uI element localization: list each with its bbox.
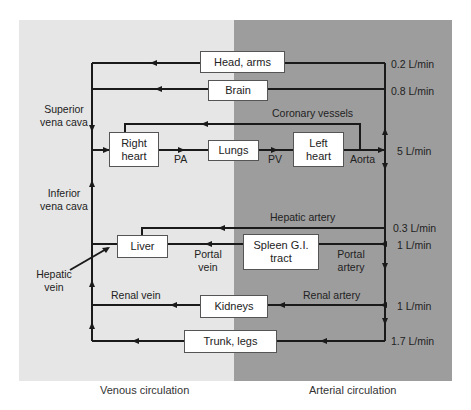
flow-brain: 0.8 L/min: [391, 85, 434, 98]
hepatic-vein-line1: Hepatic: [34, 268, 74, 281]
portal-artery-label: Portal artery: [333, 248, 369, 274]
pv-label: PV: [268, 153, 282, 166]
right-heart-box: Right heart: [109, 132, 159, 167]
coronary-vessels-label: Coronary vessels: [272, 107, 353, 120]
inferior-vena-cava-label: Inferior vena cava: [36, 187, 92, 213]
trunk-legs-box: Trunk, legs: [184, 330, 277, 353]
flow-hepatic-artery: 0.3 L/min: [393, 222, 436, 235]
left-heart-box: Left heart: [293, 132, 344, 167]
left-heart-label: Left heart: [301, 137, 337, 163]
flow-trunk-legs: 1.7 L/min: [391, 335, 434, 348]
portal-artery-line1: Portal: [333, 248, 369, 261]
flow-kidneys: 1 L/min: [397, 300, 431, 313]
renal-artery-label: Renal artery: [303, 289, 360, 302]
kidneys-box: Kidneys: [200, 295, 268, 318]
superior-label-line1: Superior: [36, 103, 92, 116]
right-heart-label: Right heart: [116, 137, 152, 163]
brain-box: Brain: [208, 80, 268, 101]
hepatic-vein-label: Hepatic vein: [34, 268, 74, 294]
portal-vein-line2: vein: [190, 261, 226, 274]
liver-box: Liver: [117, 235, 168, 258]
portal-artery-line2: artery: [333, 261, 369, 274]
aorta-label: Aorta: [350, 153, 375, 166]
portal-vein-line1: Portal: [190, 248, 226, 261]
spleen-gi-label: Spleen G.I. tract: [253, 239, 309, 265]
hepatic-vein-line2: vein: [34, 281, 74, 294]
arterial-circulation-caption: Arterial circulation: [309, 384, 396, 396]
pa-label: PA: [174, 153, 187, 166]
portal-vein-label: Portal vein: [190, 248, 226, 274]
inferior-label-line2: vena cava: [36, 200, 92, 213]
spleen-gi-box: Spleen G.I. tract: [243, 234, 319, 270]
superior-vena-cava-label: Superior vena cava: [36, 103, 92, 129]
flow-cardiac-output: 5 L/min: [397, 145, 431, 158]
flow-head-arms: 0.2 L/min: [391, 58, 434, 71]
head-arms-box: Head, arms: [200, 51, 285, 73]
lungs-box: Lungs: [208, 140, 259, 161]
inferior-label-line1: Inferior: [36, 187, 92, 200]
venous-circulation-caption: Venous circulation: [100, 384, 189, 396]
superior-label-line2: vena cava: [36, 116, 92, 129]
renal-vein-label: Renal vein: [111, 289, 161, 302]
flow-spleen-gi: 1 L/min: [397, 239, 431, 252]
hepatic-artery-label: Hepatic artery: [270, 211, 335, 224]
